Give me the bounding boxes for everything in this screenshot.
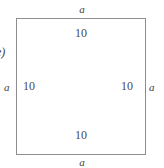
bottom-side-measure-label: 10 <box>16 129 146 141</box>
part-label: e) <box>0 46 5 58</box>
geometry-figure: e) a a a a 10 10 10 10 <box>0 0 164 168</box>
right-side-variable-label: a <box>149 82 155 93</box>
bottom-side-variable-label: a <box>0 157 164 168</box>
left-side-variable-label: a <box>4 82 10 93</box>
left-side-measure-label: 10 <box>23 80 35 92</box>
right-side-measure-label: 10 <box>121 80 133 92</box>
top-side-measure-label: 10 <box>16 27 146 39</box>
top-side-variable-label: a <box>0 4 164 15</box>
